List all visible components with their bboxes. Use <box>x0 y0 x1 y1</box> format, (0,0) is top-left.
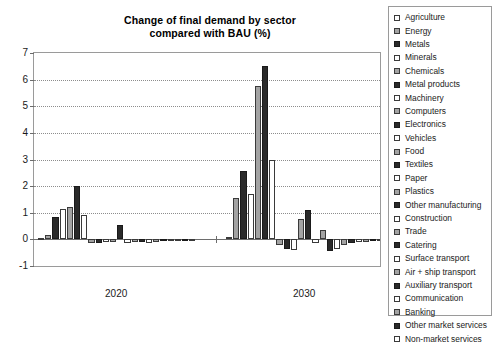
legend-item[interactable]: Other market services <box>394 319 488 332</box>
bar <box>356 239 362 242</box>
legend-item[interactable]: Food <box>394 145 488 158</box>
legend-item[interactable]: Other manufacturing <box>394 198 488 211</box>
bar <box>348 239 354 242</box>
bar <box>284 239 290 248</box>
legend-swatch-icon <box>394 135 400 141</box>
bar <box>45 235 51 239</box>
legend-item-label: Minerals <box>405 53 437 62</box>
legend-item-label: Plastics <box>405 187 434 196</box>
legend-item[interactable]: Communication <box>394 292 488 305</box>
bar-series <box>34 53 380 266</box>
legend-swatch-icon <box>394 175 400 181</box>
y-axis-label: 7 <box>22 48 28 58</box>
chart-title: Change of final demand by sector compare… <box>60 14 360 40</box>
legend-item[interactable]: Chemicals <box>394 65 488 78</box>
legend-item-label: Electronics <box>405 120 446 129</box>
legend-item[interactable]: Air + ship transport <box>394 265 488 278</box>
bar <box>262 66 268 239</box>
legend-item[interactable]: Surface transport <box>394 252 488 265</box>
legend-item-label: Communication <box>405 294 463 303</box>
bar <box>320 230 326 239</box>
legend-item-label: Construction <box>405 214 452 223</box>
legend-item-label: Trade <box>405 227 427 236</box>
legend-item-label: Other manufacturing <box>405 201 481 210</box>
y-axis-tick <box>30 266 34 267</box>
legend-item[interactable]: Auxiliary transport <box>394 279 488 292</box>
bar <box>327 239 333 251</box>
bar <box>168 239 174 241</box>
bar <box>248 194 254 239</box>
legend-item[interactable]: Textiles <box>394 158 488 171</box>
y-axis-label: 2 <box>22 181 28 191</box>
legend-item[interactable]: Non-market services <box>394 332 488 345</box>
plot-area: 76543210-1 <box>33 52 381 267</box>
legend-item[interactable]: Vehicles <box>394 132 488 145</box>
legend-swatch-icon <box>394 68 400 74</box>
legend-item-label: Surface transport <box>405 254 469 263</box>
legend-item-label: Banking <box>405 308 435 317</box>
legend: AgricultureEnergyMetalsMineralsChemicals… <box>388 6 492 316</box>
legend-swatch-icon <box>394 216 400 222</box>
legend-swatch-icon <box>394 55 400 61</box>
x-axis-label: 2020 <box>105 288 127 299</box>
legend-item[interactable]: Computers <box>394 105 488 118</box>
legend-swatch-icon <box>394 15 400 21</box>
y-axis-label: 3 <box>22 155 28 165</box>
bar <box>160 239 166 241</box>
bar <box>139 239 145 242</box>
bar <box>132 239 138 241</box>
bar <box>189 239 195 241</box>
y-axis-label: 5 <box>22 101 28 111</box>
bar <box>291 239 297 250</box>
y-axis-label: 0 <box>22 234 28 244</box>
legend-swatch-icon <box>394 283 400 289</box>
bar <box>341 239 347 244</box>
chart-title-line1: Change of final demand by sector <box>60 14 360 27</box>
legend-item[interactable]: Electronics <box>394 118 488 131</box>
bar <box>226 237 232 240</box>
legend-swatch-icon <box>394 256 400 262</box>
bar <box>146 239 152 242</box>
legend-item[interactable]: Banking <box>394 306 488 319</box>
legend-item[interactable]: Paper <box>394 172 488 185</box>
bar <box>255 86 261 239</box>
legend-item[interactable]: Energy <box>394 24 488 37</box>
legend-swatch-icon <box>394 202 400 208</box>
legend-swatch-icon <box>394 242 400 248</box>
legend-item[interactable]: Metals <box>394 38 488 51</box>
bar <box>182 239 188 241</box>
legend-item[interactable]: Minerals <box>394 51 488 64</box>
legend-swatch-icon <box>394 296 400 302</box>
legend-item-label: Auxiliary transport <box>405 281 472 290</box>
bar <box>38 238 44 240</box>
legend-swatch-icon <box>394 122 400 128</box>
legend-swatch-icon <box>394 95 400 101</box>
legend-item[interactable]: Construction <box>394 212 488 225</box>
bar <box>124 239 130 243</box>
bar <box>81 215 87 239</box>
legend-item[interactable]: Catering <box>394 239 488 252</box>
legend-item-label: Metals <box>405 40 430 49</box>
legend-item-label: Air + ship transport <box>405 268 476 277</box>
bar <box>103 239 109 241</box>
bar <box>370 239 376 241</box>
legend-item-label: Energy <box>405 27 432 36</box>
legend-item-label: Metal products <box>405 80 460 89</box>
legend-item-label: Other market services <box>405 321 487 330</box>
legend-swatch-icon <box>394 323 400 329</box>
legend-item[interactable]: Machinery <box>394 91 488 104</box>
y-axis-label: 1 <box>22 208 28 218</box>
bar <box>363 239 369 241</box>
bar <box>110 239 116 242</box>
legend-item[interactable]: Agriculture <box>394 11 488 24</box>
legend-item-label: Paper <box>405 174 427 183</box>
legend-item[interactable]: Plastics <box>394 185 488 198</box>
group-separator-tick <box>216 236 217 243</box>
bar <box>117 225 123 240</box>
legend-item-label: Vehicles <box>405 134 436 143</box>
y-axis-label: 4 <box>22 128 28 138</box>
legend-item-label: Machinery <box>405 94 444 103</box>
legend-item[interactable]: Metal products <box>394 78 488 91</box>
legend-item[interactable]: Trade <box>394 225 488 238</box>
